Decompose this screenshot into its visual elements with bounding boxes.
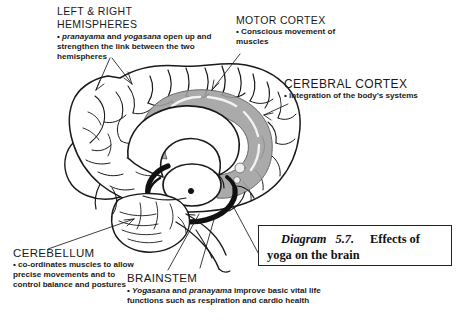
annotation-brainstem-term-1: Yogasana xyxy=(132,286,170,295)
leader-line-cerebral-cortex xyxy=(264,104,288,120)
annotation-motor-cortex-body: • Conscious movement of muscles xyxy=(236,27,366,47)
annotation-motor-cortex-heading: MOTOR CORTEX xyxy=(236,14,366,26)
annotation-cerebellum-heading: CEREBELLUM xyxy=(13,247,143,259)
annotation-cerebral-cortex-heading: CEREBRAL CORTEX xyxy=(284,78,462,90)
annotation-hemispheres-body-mid: and xyxy=(105,32,124,41)
caption-text-line2: yoga on the brain xyxy=(267,248,360,262)
annotation-brainstem-heading: BRAINSTEM xyxy=(127,272,359,284)
diagram-caption-box: Diagram5.7.Effects ofyoga on the brain xyxy=(258,225,452,266)
bullet-glyph: • xyxy=(127,286,130,295)
annotation-brainstem-body-mid: and xyxy=(170,286,189,295)
annotation-hemispheres: LEFT & RIGHT HEMISPHERES • pranayama and… xyxy=(57,5,232,63)
annotation-cerebellum: CEREBELLUM • co-ordinates muscles to all… xyxy=(13,247,143,291)
annotation-brainstem-body: • Yogasana and pranayama improve basic v… xyxy=(127,286,359,306)
annotation-hemispheres-term-1: pranayama xyxy=(62,32,105,41)
annotation-motor-cortex: MOTOR CORTEX • Conscious movement of mus… xyxy=(236,14,366,47)
annotation-cerebellum-body: • co-ordinates muscles to allow precise … xyxy=(13,260,143,291)
annotation-cerebral-cortex-body-text: integration of the body’s systems xyxy=(287,91,418,100)
annotation-hemispheres-heading-line2: HEMISPHERES xyxy=(57,18,232,31)
annotation-motor-cortex-body-text: Conscious movement of muscles xyxy=(236,27,335,46)
brain-diagram-figure: LEFT & RIGHT HEMISPHERES • pranayama and… xyxy=(0,0,462,324)
annotation-hemispheres-heading-line1: LEFT & RIGHT xyxy=(57,5,232,18)
annotation-brainstem: BRAINSTEM • Yogasana and pranayama impro… xyxy=(127,272,359,306)
annotation-hemispheres-term-2: yogasana xyxy=(124,32,161,41)
annotation-hemispheres-body: • pranayama and yogasana open up and str… xyxy=(57,32,232,63)
annotation-cerebellum-body-text: co-ordinates muscles to allow precise mo… xyxy=(13,260,134,289)
caption-text-line1: Effects of xyxy=(370,232,420,246)
annotation-brainstem-term-2: pranayama xyxy=(189,286,232,295)
caption-number: 5.7. xyxy=(335,232,354,246)
caption-label: Diagram xyxy=(281,232,326,246)
annotation-cerebral-cortex-body: • integration of the body’s systems xyxy=(284,91,462,101)
annotation-cerebral-cortex: CEREBRAL CORTEX • integration of the bod… xyxy=(284,78,462,101)
